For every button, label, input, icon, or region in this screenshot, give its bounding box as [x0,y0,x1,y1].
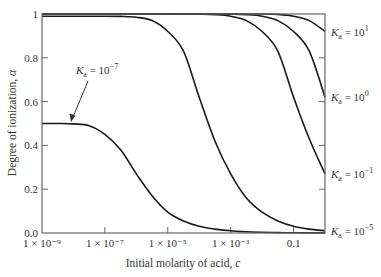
x-tick-label: 1 × 10⁻⁵ [149,237,187,249]
curve-ka-10-1 [42,14,325,174]
curves [42,14,325,233]
x-tick-label: 1 × 10⁻³ [212,237,250,249]
y-tick-label: 0.6 [24,96,38,108]
plot-frame [42,14,325,233]
y-axis-title: Degree of ionization, α [6,69,19,176]
annotation-ka-1e-7: Ka = 10−7 [70,62,119,122]
y-tick-label: 0.8 [24,52,38,64]
annotation-label: Ka = 10−7 [75,62,118,79]
y-tick-label: 0.2 [24,183,38,195]
curve-ka-10-5 [42,16,325,231]
ionization-chart: 0.00.20.40.60.81 1 × 10⁻⁹1 × 10⁻⁷1 × 10⁻… [0,0,381,277]
curve-labels: Ka = 101Ka = 100Ka = 10−1Ka = 10−5 [330,24,373,240]
x-tick-label: 1 × 10⁻⁹ [23,237,61,249]
curve-label: Ka = 10−1 [330,166,373,183]
curve-label: Ka = 10−5 [330,223,373,240]
annotation-arrow [73,81,88,117]
x-axis-title: Initial molarity of acid, c [126,257,241,270]
curve-label: Ka = 101 [330,24,369,41]
x-tick-label: 0.1 [287,237,301,249]
arrowhead-icon [70,114,76,123]
curve-ka-10-0 [42,14,325,97]
x-axis-ticks: 1 × 10⁻⁹1 × 10⁻⁷1 × 10⁻⁵1 × 10⁻³0.1 [23,227,300,249]
x-tick-label: 1 × 10⁻⁷ [86,237,124,249]
curve-label: Ka = 100 [330,89,369,106]
y-tick-label: 1 [33,8,39,20]
y-tick-label: 0.4 [24,139,38,151]
curve-ka-10-7 [42,123,325,232]
